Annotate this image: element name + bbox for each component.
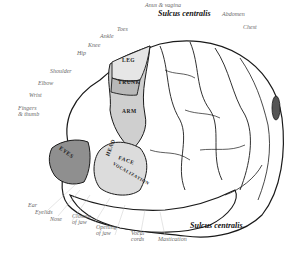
region-leg: LEG [122,58,135,64]
label-ankle: Ankle [100,33,114,39]
label-vocal-cords: Vocal cords [131,230,144,243]
label-opening-of-jaw: Opening of jaw [96,224,117,237]
label-abdomen: Abdomen [222,11,245,17]
label-nose: Nose [50,216,62,222]
label-sulcus-centralis-bottom: Sulcus centralis. [190,222,245,230]
label-knee: Knee [88,42,100,48]
label-toes: Toes [117,26,128,32]
label-anus-vagina: Anus & vagina [145,2,181,8]
brain-diagram: Anus & vagina Toes Ankle Knee Hip Sulcus… [0,0,306,259]
frontal-pole-mark [272,96,280,120]
label-shoulder: Shoulder [50,68,72,74]
region-arm: ARM [122,109,137,115]
eyes-head-area [49,140,90,184]
label-hip: Hip [77,50,86,56]
brain-illustration [0,0,306,259]
label-closure-of-jaw: Closure of jaw [72,213,91,226]
label-ear: Ear [28,202,37,208]
label-wrist: Wrist [29,92,42,98]
label-sulcus-centralis-top: Sulcus centralis [158,10,211,18]
label-eyelids: Eyelids [35,209,53,215]
region-trunk: TRUNK [118,80,140,86]
label-fingers-thumb: Fingers & thumb [18,105,39,118]
label-chest: Chest [243,24,257,30]
label-mastication: Mastication [158,236,187,242]
label-elbow: Elbow [38,80,53,86]
